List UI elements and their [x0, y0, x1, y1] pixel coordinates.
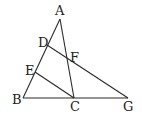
point-label-g: G	[123, 99, 133, 114]
point-label-c: C	[70, 99, 80, 114]
diagram-svg: A B C G D E F	[0, 0, 142, 119]
point-label-a: A	[54, 3, 65, 18]
point-label-f: F	[70, 50, 79, 65]
point-label-d: D	[38, 35, 48, 50]
geometry-diagram: A B C G D E F	[0, 0, 142, 119]
segment-DG	[47, 45, 128, 98]
segment-EC	[35, 72, 74, 98]
point-label-b: B	[12, 92, 22, 107]
point-label-e: E	[25, 63, 35, 78]
segment-AB	[23, 19, 60, 98]
